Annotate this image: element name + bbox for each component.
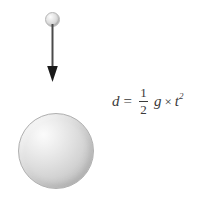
free-fall-diagram-canvas: d = 1 2 g × t 2 [0,0,205,198]
fraction-denominator: 2 [139,103,148,117]
ground-body-sphere-icon [18,113,94,189]
fraction-numerator: 1 [139,86,148,100]
free-fall-formula: d = 1 2 g × t 2 [112,86,183,116]
arrow-head [47,66,58,82]
formula-equals-sign: = [124,94,132,109]
formula-time-exponent: 2 [179,92,184,101]
downward-motion-arrow-icon [44,20,62,86]
formula-one-half-fraction: 1 2 [139,86,148,116]
formula-multiply-sign: × [164,95,171,108]
formula-gravity-symbol: g [154,94,162,109]
formula-distance-symbol: d [112,94,120,109]
